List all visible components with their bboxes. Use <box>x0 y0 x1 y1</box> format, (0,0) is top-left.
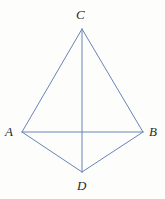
figure-edges <box>22 29 143 172</box>
geometry-canvas <box>0 0 165 199</box>
segment-CA <box>22 29 82 132</box>
vertex-label-c: C <box>76 8 85 21</box>
vertex-label-a: A <box>5 125 13 138</box>
vertex-label-b: B <box>149 125 157 138</box>
geometry-figure: C A B D <box>0 0 165 199</box>
segment-AD <box>22 132 82 172</box>
segment-CB <box>82 29 143 132</box>
vertex-label-d: D <box>77 179 86 192</box>
segment-DB <box>82 132 143 172</box>
